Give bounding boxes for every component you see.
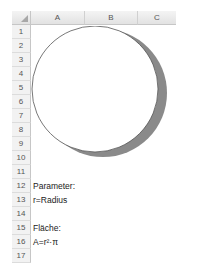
- row-header-15[interactable]: 15: [12, 221, 31, 235]
- row-header-14[interactable]: 14: [12, 207, 31, 221]
- column-header-a[interactable]: A: [31, 11, 85, 25]
- row-header-17[interactable]: 17: [12, 249, 31, 263]
- select-all-triangle-icon: [21, 15, 28, 22]
- row-header-16[interactable]: 16: [12, 235, 31, 249]
- row-header-11[interactable]: 11: [12, 165, 31, 179]
- column-header-c[interactable]: C: [138, 11, 176, 25]
- row-header-13[interactable]: 13: [12, 193, 31, 207]
- column-header-b[interactable]: B: [85, 11, 138, 25]
- row-header-12[interactable]: 12: [12, 179, 31, 193]
- cell-a12[interactable]: Parameter:: [32, 179, 75, 193]
- circle-body: [32, 26, 158, 152]
- select-all-button[interactable]: [12, 11, 31, 25]
- cell-a16[interactable]: A=r²·π: [32, 235, 58, 249]
- cell-a13[interactable]: r=Radius: [32, 193, 67, 207]
- cell-a15[interactable]: Fläche:: [32, 221, 61, 235]
- circle-shape[interactable]: [29, 26, 169, 166]
